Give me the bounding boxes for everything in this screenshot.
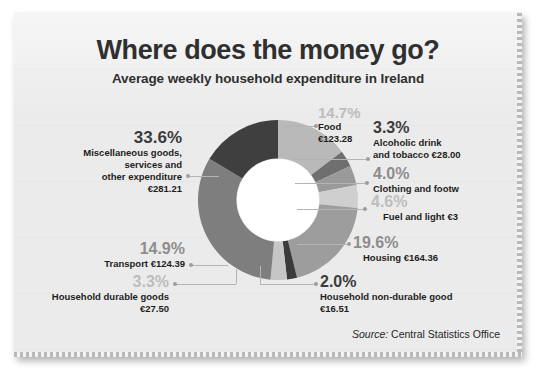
label-household-durable-pct: 3.3% [14, 274, 169, 291]
label-miscellaneous-line1: Miscellaneous goods, [14, 147, 182, 159]
leader-household-non-durable-stem [260, 266, 261, 284]
label-household-durable: 3.3% Household durable goods €27.50 [14, 274, 169, 315]
label-miscellaneous-pct: 33.6% [14, 129, 182, 147]
leader-dot-household-non-durable [314, 282, 318, 286]
label-alcohol-tobacco-pct: 3.3% [373, 120, 522, 137]
label-transport-line1: Transport €124.39 [14, 258, 185, 270]
leader-food [282, 126, 316, 127]
leader-dot-fuel-light [363, 207, 367, 211]
label-clothing-footwear: 4.0% Clothing and footw [373, 166, 522, 195]
leader-dot-alcohol-tobacco [366, 157, 370, 161]
label-transport-pct: 14.9% [14, 241, 185, 258]
leader-alcohol-tobacco [290, 159, 368, 160]
leader-household-durable [176, 284, 236, 285]
page-title: Where does the money go? [14, 35, 522, 66]
label-household-durable-line2: €27.50 [14, 303, 169, 315]
perforated-edge-right [517, 13, 522, 357]
label-housing-pct: 19.6% [353, 235, 503, 252]
leader-household-non-durable [260, 284, 316, 285]
perforated-edge-bottom [14, 352, 522, 357]
label-household-non-durable-line2: €16.51 [320, 303, 520, 315]
leader-miscellaneous [189, 176, 219, 177]
label-miscellaneous-line3: other expenditure [14, 171, 182, 183]
label-housing: 19.6% Housing €164.36 [353, 235, 503, 264]
label-clothing-footwear-pct: 4.0% [373, 166, 522, 183]
paper-card: Where does the money go? Average weekly … [14, 13, 522, 357]
label-household-non-durable-pct: 2.0% [320, 274, 520, 291]
leader-clothing-footwear [295, 183, 367, 184]
label-fuel-light: 4.6% Fuel and light €3 [371, 194, 521, 223]
label-transport: 14.9% Transport €124.39 [14, 241, 185, 270]
donut-hole [237, 159, 319, 241]
label-alcohol-tobacco: 3.3% Alcoholic drink and tobacco €28.00 [373, 120, 522, 161]
page-subtitle: Average weekly household expenditure in … [14, 71, 522, 86]
label-household-durable-line1: Household durable goods [14, 291, 169, 303]
leader-dot-housing [347, 242, 351, 246]
label-household-non-durable: 2.0% Household non-durable good €16.51 [320, 274, 520, 315]
label-alcohol-tobacco-line2: and tobacco €28.00 [373, 149, 522, 161]
leader-dot-household-durable [173, 282, 177, 286]
leader-dot-miscellaneous [186, 174, 190, 178]
source-name: Central Statistics Office [391, 328, 500, 340]
infographic-root: Where does the money go? Average weekly … [0, 0, 550, 384]
leader-fuel-light [297, 209, 365, 210]
leader-dot-transport [189, 263, 193, 267]
leader-household-durable-stem [236, 269, 237, 284]
label-alcohol-tobacco-line1: Alcoholic drink [373, 137, 522, 149]
label-fuel-light-pct: 4.6% [371, 194, 521, 211]
source-attribution: Source: Central Statistics Office [352, 328, 500, 340]
leader-dot-clothing-footwear [365, 181, 369, 185]
label-miscellaneous-line2: services and [14, 159, 182, 171]
label-fuel-light-line1: Fuel and light €3 [383, 211, 521, 223]
leader-transport [192, 265, 228, 266]
label-household-non-durable-line1: Household non-durable good [320, 291, 520, 303]
label-miscellaneous: 33.6% Miscellaneous goods, services and … [14, 129, 182, 195]
label-housing-line1: Housing €164.36 [363, 252, 503, 264]
source-prefix: Source: [352, 328, 388, 340]
label-miscellaneous-line4: €281.21 [14, 183, 182, 195]
leader-housing [297, 244, 349, 245]
